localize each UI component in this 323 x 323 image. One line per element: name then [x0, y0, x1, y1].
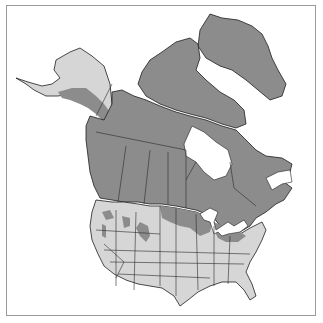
range-patch-cascades: [102, 224, 106, 238]
north-america-range-map: [0, 0, 323, 323]
